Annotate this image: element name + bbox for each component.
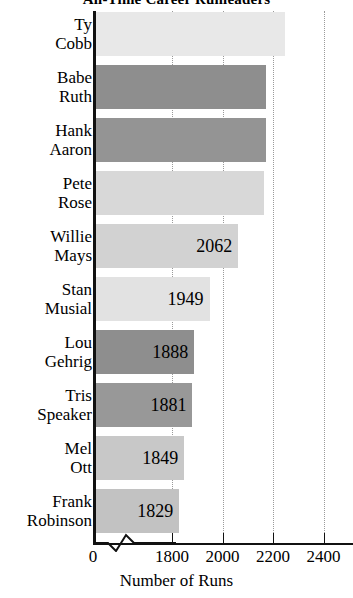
bar-row: FrankRobinson1829 — [0, 489, 353, 533]
bar-label-line1: Lou — [0, 333, 92, 352]
bar-label-tris-speaker: TrisSpeaker — [0, 386, 92, 424]
bar-label-line1: Tris — [0, 386, 92, 405]
bar-label-line2: Gehrig — [0, 352, 92, 371]
bar-row: TrisSpeaker1881 — [0, 383, 353, 427]
bar-label-hank-aaron: HankAaron — [0, 121, 92, 159]
bar-label-line1: Hank — [0, 121, 92, 140]
bar-value-label: 1949 — [168, 290, 204, 308]
bar-label-stan-musial: StanMusial — [0, 280, 92, 318]
bar-row: BabeRuth — [0, 65, 353, 109]
bar-row: LouGehrig1888 — [0, 330, 353, 374]
bar-chart: All-Time Career Runleaders 0180020002200… — [0, 0, 353, 598]
tick-2000 — [223, 533, 224, 544]
bar-label-line1: Ty — [0, 15, 92, 34]
bar-label-line1: Mel — [0, 439, 92, 458]
bar-label-line1: Stan — [0, 280, 92, 299]
bar-label-mel-ott: MelOtt — [0, 439, 92, 477]
tick-2400 — [324, 533, 325, 544]
bar-row: StanMusial1949 — [0, 277, 353, 321]
bar-label-line2: Ott — [0, 458, 92, 477]
tick-label-2000: 2000 — [206, 547, 240, 567]
bar-label-willie-mays: WillieMays — [0, 227, 92, 265]
bar-row: HankAaron — [0, 118, 353, 162]
bar-label-pete-rose: PeteRose — [0, 174, 92, 212]
bar-hank-aaron[interactable] — [96, 118, 266, 162]
tick-2200 — [273, 533, 274, 544]
bar-row: TyCobb — [0, 12, 353, 56]
bar-label-line2: Speaker — [0, 405, 92, 424]
bar-label-line2: Musial — [0, 299, 92, 318]
bar-label-line2: Robinson — [0, 511, 92, 530]
bar-pete-rose[interactable] — [96, 171, 264, 215]
bar-ty-cobb[interactable] — [96, 12, 285, 56]
bar-label-babe-ruth: BabeRuth — [0, 68, 92, 106]
tick-label-2200: 2200 — [256, 547, 290, 567]
chart-title: All-Time Career Runleaders — [0, 0, 353, 7]
bar-label-line1: Pete — [0, 174, 92, 193]
x-axis-label: Number of Runs — [0, 571, 353, 591]
bar-label-lou-gehrig: LouGehrig — [0, 333, 92, 371]
bar-babe-ruth[interactable] — [96, 65, 266, 109]
bar-label-ty-cobb: TyCobb — [0, 15, 92, 53]
bar-value-label: 1829 — [137, 502, 173, 520]
bar-label-line2: Aaron — [0, 140, 92, 159]
tick-1800 — [172, 533, 173, 544]
bar-row: PeteRose — [0, 171, 353, 215]
bar-label-line1: Willie — [0, 227, 92, 246]
bar-label-line2: Mays — [0, 246, 92, 265]
bar-value-label: 2062 — [196, 237, 232, 255]
bar-label-line2: Rose — [0, 193, 92, 212]
bar-label-line2: Cobb — [0, 34, 92, 53]
bar-row: MelOtt1849 — [0, 436, 353, 480]
bar-label-line1: Frank — [0, 492, 92, 511]
bar-value-label: 1888 — [152, 343, 188, 361]
bar-value-label: 1881 — [150, 396, 186, 414]
tick-label-1800: 1800 — [155, 547, 189, 567]
bar-row: WillieMays2062 — [0, 224, 353, 268]
bar-value-label: 1849 — [142, 449, 178, 467]
tick-label-2400: 2400 — [307, 547, 341, 567]
bar-label-frank-robinson: FrankRobinson — [0, 492, 92, 530]
tick-0 — [93, 533, 94, 544]
bar-label-line2: Ruth — [0, 87, 92, 106]
tick-label-0: 0 — [89, 547, 98, 567]
bar-label-line1: Babe — [0, 68, 92, 87]
